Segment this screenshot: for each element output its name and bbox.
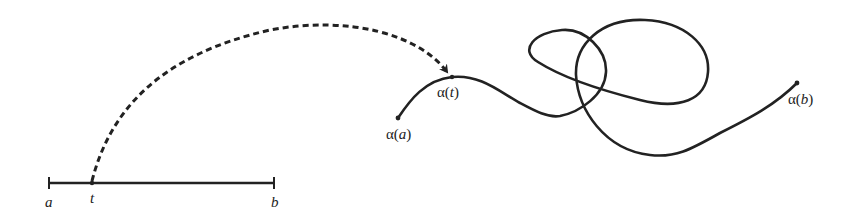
mapping-arrow (92, 25, 447, 181)
curve-start-dot (396, 116, 401, 121)
label-a: a (45, 194, 53, 210)
label-b: b (271, 194, 279, 210)
interval-segment (49, 177, 274, 189)
label-t: t (90, 190, 95, 206)
label-alpha-t: α(t) (437, 84, 459, 101)
curve-end-dot (795, 81, 800, 86)
label-alpha-b: α(b) (788, 91, 813, 108)
curve-point-dot (450, 75, 454, 79)
curve-mapping-diagram: a t b α(a) α(t) α(b) (0, 0, 857, 222)
point-t-dot (90, 181, 94, 185)
label-alpha-a: α(a) (386, 126, 411, 143)
